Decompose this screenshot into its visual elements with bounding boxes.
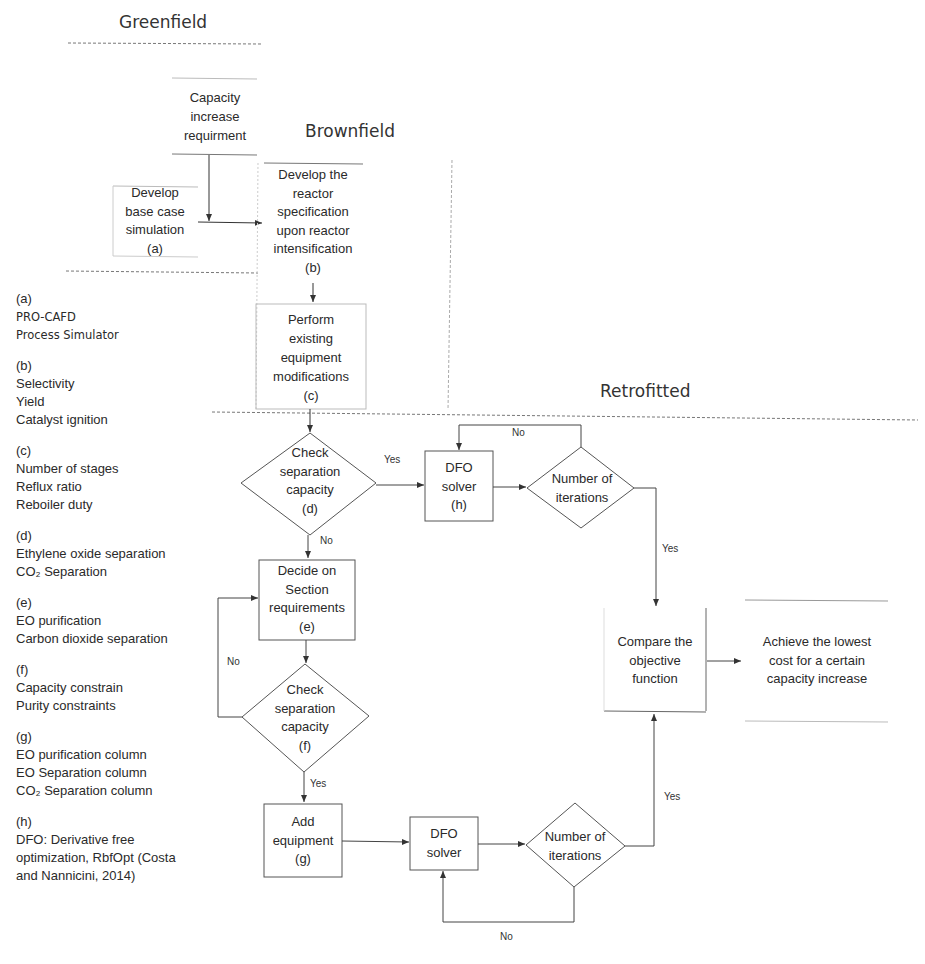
node-line: Perform <box>256 310 366 329</box>
node-line: (f) <box>255 737 355 756</box>
achieve-top-line <box>745 600 888 601</box>
node-line: upon reactor <box>260 222 366 241</box>
node-line: DFO <box>425 459 493 478</box>
node-line: Decide on <box>259 562 355 581</box>
node-line: capacity increase <box>742 670 892 689</box>
legend-item: Number of stages <box>16 460 176 478</box>
legend-item: Reboiler duty <box>16 496 176 514</box>
node-compare-objective: Compare the objective function <box>604 633 706 689</box>
node-add-equipment: Add equipment (g) <box>264 813 342 869</box>
legend-group-h: (h) DFO: Derivative free optimization, R… <box>16 813 176 885</box>
node-line: (b) <box>260 259 366 278</box>
node-line: Develop <box>110 184 200 203</box>
edge-label-top-iter-no: No <box>512 427 525 438</box>
node-line: (d) <box>260 500 360 519</box>
legend-item: Process Simulator <box>16 326 176 344</box>
node-line: Add <box>264 813 342 832</box>
legend-item: Yield <box>16 393 176 411</box>
node-line: (h) <box>425 496 493 515</box>
node-achieve-lowest-cost: Achieve the lowest cost for a certain ca… <box>742 633 892 689</box>
node-reactor-specification: Develop the reactor specification upon r… <box>260 166 366 277</box>
node-line: (e) <box>259 618 355 637</box>
legend-key: (d) <box>16 527 176 545</box>
node-line: (g) <box>264 850 342 869</box>
legend-item: PRO-CAFD <box>16 308 176 326</box>
node-line: Capacity <box>172 88 258 107</box>
legend-item: CO₂ Separation column <box>16 782 176 800</box>
legend: (a) PRO-CAFD Process Simulator (b) Selec… <box>16 290 176 898</box>
edge-label-f-no: No <box>227 656 240 667</box>
node-line: cost for a certain <box>742 652 892 671</box>
legend-item: and Nannicini, 2014) <box>16 867 176 885</box>
node-line: function <box>604 670 706 689</box>
node-capacity-requirement: Capacity increase requirment <box>172 88 258 145</box>
legend-item: Reflux ratio <box>16 478 176 496</box>
node-line: increase <box>172 107 258 126</box>
node-line: (c) <box>256 386 366 405</box>
node-line: modifications <box>256 367 366 386</box>
node-line: base case <box>110 203 200 222</box>
legend-group-e: (e) EO purification Carbon dioxide separ… <box>16 594 176 648</box>
node-line: Check <box>260 444 360 463</box>
legend-item: Carbon dioxide separation <box>16 630 176 648</box>
legend-group-f: (f) Capacity constrain Purity constraint… <box>16 661 176 715</box>
legend-group-d: (d) Ethylene oxide separation CO₂ Separa… <box>16 527 176 581</box>
legend-item: Selectivity <box>16 375 176 393</box>
legend-item: Purity constraints <box>16 697 176 715</box>
node-line: equipment <box>264 832 342 851</box>
node-check-separation-d: Check separation capacity (d) <box>260 444 360 518</box>
node-line: (a) <box>110 240 200 259</box>
node-dfo-solver-bottom: DFO solver <box>410 825 478 862</box>
node-line: specification <box>260 203 366 222</box>
node-line: requirment <box>172 126 258 145</box>
section-title-retrofitted: Retrofitted <box>600 381 690 401</box>
legend-key: (c) <box>16 442 176 460</box>
legend-key: (h) <box>16 813 176 831</box>
legend-key: (f) <box>16 661 176 679</box>
node-dfo-solver-h: DFO solver (h) <box>425 459 493 515</box>
node-line: capacity <box>255 718 355 737</box>
legend-item: DFO: Derivative free <box>16 831 176 849</box>
legend-group-c: (c) Number of stages Reflux ratio Reboil… <box>16 442 176 514</box>
edge-label-d-yes: Yes <box>384 454 400 465</box>
node-line: solver <box>425 478 493 497</box>
legend-item: EO purification column <box>16 746 176 764</box>
node-line: Number of <box>530 470 634 489</box>
legend-item: EO Separation column <box>16 764 176 782</box>
legend-item: CO₂ Separation <box>16 563 176 581</box>
legend-key: (g) <box>16 728 176 746</box>
node-line: simulation <box>110 221 200 240</box>
edge-label-bottom-iter-yes: Yes <box>664 791 680 802</box>
node-line: Check <box>255 681 355 700</box>
node-line: existing <box>256 329 366 348</box>
section-title-greenfield: Greenfield <box>119 12 207 32</box>
legend-item: EO purification <box>16 612 176 630</box>
edge-label-top-iter-yes: Yes <box>662 543 678 554</box>
brownfield-right-border <box>448 160 452 410</box>
node-line: reactor <box>260 185 366 204</box>
node-decide-section: Decide on Section requirements (e) <box>259 562 355 636</box>
node-line: iterations <box>525 847 625 866</box>
retrofitted-divider <box>212 412 918 420</box>
node-line: DFO <box>410 825 478 844</box>
node-line: objective <box>604 652 706 671</box>
legend-item: Catalyst ignition <box>16 411 176 429</box>
node-line: intensification <box>260 240 366 259</box>
legend-item: optimization, RbfOpt (Costa <box>16 849 176 867</box>
legend-item: Ethylene oxide separation <box>16 545 176 563</box>
legend-key: (e) <box>16 594 176 612</box>
legend-item: Capacity constrain <box>16 679 176 697</box>
node-line: requirements <box>259 599 355 618</box>
node-check-separation-f: Check separation capacity (f) <box>255 681 355 755</box>
legend-key: (a) <box>16 290 176 308</box>
legend-group-b: (b) Selectivity Yield Catalyst ignition <box>16 357 176 429</box>
node-base-case-simulation: Develop base case simulation (a) <box>110 184 200 258</box>
edge-label-bottom-iter-no: No <box>500 931 513 942</box>
node-line: equipment <box>256 348 366 367</box>
node-line: iterations <box>530 489 634 508</box>
greenfield-divider <box>68 43 262 44</box>
node-line: capacity <box>260 481 360 500</box>
legend-group-g: (g) EO purification column EO Separation… <box>16 728 176 800</box>
node-number-iterations-top: Number of iterations <box>530 470 634 507</box>
node-line: Section <box>259 581 355 600</box>
